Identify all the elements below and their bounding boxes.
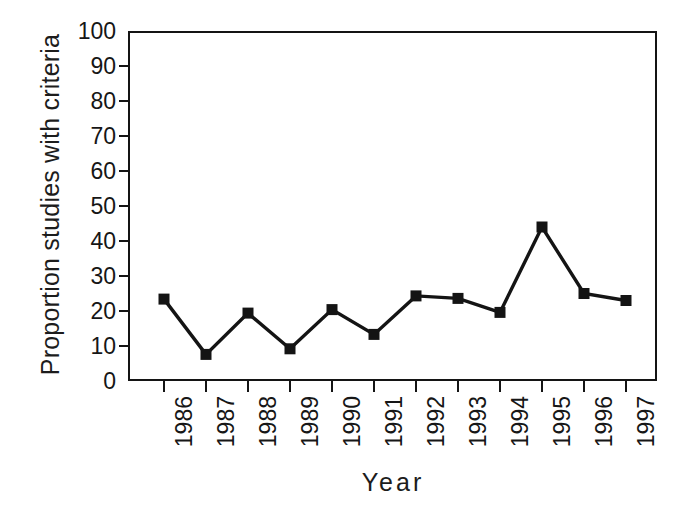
x-axis-tick-mark: [331, 381, 333, 392]
y-axis-tick-label: 20: [70, 300, 116, 323]
y-axis-tick-mark: [119, 135, 128, 137]
x-axis-tick-mark: [541, 381, 543, 392]
x-axis-title: Year: [128, 468, 658, 497]
y-axis-tick-labels: 0102030405060708090100: [66, 0, 116, 513]
y-axis-tick-label: 60: [70, 160, 116, 183]
y-axis-tick-label: 70: [70, 125, 116, 148]
x-axis-tick-label: 1991: [383, 396, 406, 466]
x-axis-tick-label: 1993: [467, 396, 490, 466]
x-axis-tick-mark: [499, 381, 501, 392]
plot-area: [128, 31, 657, 381]
y-axis-tick-mark: [119, 100, 128, 102]
y-axis-tick-mark: [119, 310, 128, 312]
y-axis-tick-label: 90: [70, 55, 116, 78]
x-axis-tick-label: 1987: [215, 396, 238, 466]
x-axis-tick-label: 1994: [509, 396, 532, 466]
x-axis-tick-mark: [583, 381, 585, 392]
x-axis-tick-mark: [163, 381, 165, 392]
y-axis-tick-label: 80: [70, 90, 116, 113]
y-axis-tick-mark: [119, 170, 128, 172]
x-axis-tick-mark: [373, 381, 375, 392]
y-axis-tick-label: 10: [70, 335, 116, 358]
x-axis-tick-label: 1986: [173, 396, 196, 466]
chart-figure: Proportion studies with criteria 0102030…: [0, 0, 692, 513]
x-axis-tick-mark: [205, 381, 207, 392]
x-axis-tick-mark: [289, 381, 291, 392]
y-axis-tick-mark: [119, 65, 128, 67]
x-axis-tick-mark: [247, 381, 249, 392]
x-axis-tick-label: 1996: [593, 396, 616, 466]
x-axis-tick-mark: [415, 381, 417, 392]
y-axis-tick-mark: [119, 345, 128, 347]
x-axis-tick-label: 1989: [299, 396, 322, 466]
y-axis-tick-mark: [119, 205, 128, 207]
x-axis-tick-label: 1992: [425, 396, 448, 466]
x-axis-tick-mark: [625, 381, 627, 392]
y-axis-tick-label: 100: [70, 20, 116, 43]
x-axis-tick-mark: [457, 381, 459, 392]
x-axis-tick-label: 1995: [551, 396, 574, 466]
y-axis-tick-label: 30: [70, 265, 116, 288]
y-axis-tick-label: 0: [70, 370, 116, 393]
y-axis-tick-label: 50: [70, 195, 116, 218]
x-axis-tick-label: 1988: [257, 396, 280, 466]
y-axis-tick-label: 40: [70, 230, 116, 253]
x-axis-tick-label: 1990: [341, 396, 364, 466]
y-axis-tick-mark: [119, 275, 128, 277]
y-axis-tick-mark: [119, 240, 128, 242]
x-axis-tick-label: 1997: [635, 396, 658, 466]
y-axis-title: Proportion studies with criteria: [36, 25, 65, 385]
